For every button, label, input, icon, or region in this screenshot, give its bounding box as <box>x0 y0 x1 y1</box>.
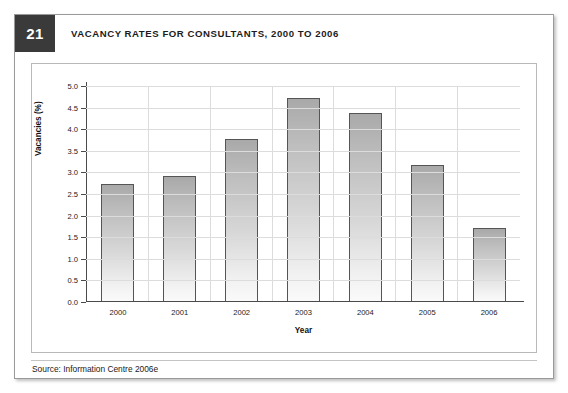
gridline <box>86 129 520 130</box>
y-axis-tick-label: 2.5 <box>67 190 78 199</box>
y-axis-tick <box>81 108 86 109</box>
x-axis-tick-label: 2001 <box>149 308 211 317</box>
y-axis-tick <box>81 216 86 217</box>
y-axis-tick-label: 0.5 <box>67 276 78 285</box>
y-axis-tick <box>81 86 86 87</box>
gridline <box>86 280 520 281</box>
figure-title: VACANCY RATES FOR CONSULTANTS, 2000 TO 2… <box>55 15 553 52</box>
bar[interactable] <box>349 113 382 301</box>
y-axis-tick-label: 1.0 <box>67 254 78 263</box>
gridline <box>86 237 520 238</box>
x-axis-title: Year <box>87 326 520 335</box>
gridline <box>86 108 520 109</box>
y-axis-tick-label: 2.0 <box>67 211 78 220</box>
y-axis-tick <box>81 129 86 130</box>
y-axis-tick-label: 3.5 <box>67 146 78 155</box>
source-divider <box>31 360 537 361</box>
y-axis-tick-label: 4.5 <box>67 103 78 112</box>
y-axis-tick <box>81 151 86 152</box>
gridline <box>86 216 520 217</box>
y-axis-tick <box>81 194 86 195</box>
x-axis-tick-label: 2003 <box>273 308 335 317</box>
bar[interactable] <box>473 228 506 301</box>
y-axis-tick-label: 0.0 <box>67 298 78 307</box>
x-axis-tick-label: 2002 <box>211 308 273 317</box>
y-axis-tick <box>81 172 86 173</box>
y-axis-tick-label: 3.0 <box>67 168 78 177</box>
y-axis-tick-label: 4.0 <box>67 125 78 134</box>
figure-container: 21 VACANCY RATES FOR CONSULTANTS, 2000 T… <box>14 14 554 379</box>
figure-number-badge: 21 <box>15 15 55 52</box>
gridline <box>86 151 520 152</box>
bar[interactable] <box>225 139 258 301</box>
gridline <box>86 194 520 195</box>
x-axis-tick-label: 2005 <box>396 308 458 317</box>
y-axis-tick-label: 5.0 <box>67 82 78 91</box>
x-axis-tick-label: 2000 <box>87 308 149 317</box>
figure-header: 21 VACANCY RATES FOR CONSULTANTS, 2000 T… <box>15 15 553 52</box>
y-axis-tick <box>81 259 86 260</box>
x-axis-tick-label: 2004 <box>334 308 396 317</box>
y-axis-title: Vacancies (%) <box>34 142 43 156</box>
x-axis-line <box>86 301 524 302</box>
x-axis-tick-label: 2006 <box>458 308 520 317</box>
chart-panel: Vacancies (%) 0.00.51.01.52.02.53.03.54.… <box>31 63 537 353</box>
gridline <box>86 259 520 260</box>
chart-axes: 0.00.51.01.52.02.53.03.54.04.55.0 <box>86 86 520 302</box>
x-axis-tick-labels: 2000200120022003200420052006 <box>87 308 520 317</box>
bar[interactable] <box>101 184 134 301</box>
y-axis-tick <box>81 280 86 281</box>
y-axis-tick-label: 1.5 <box>67 233 78 242</box>
y-axis-tick <box>81 302 86 303</box>
source-note: Source: Information Centre 2006e <box>32 364 158 374</box>
gridline <box>86 86 520 87</box>
y-axis-tick <box>81 237 86 238</box>
chart-plot-area: Vacancies (%) 0.00.51.01.52.02.53.03.54.… <box>32 64 536 352</box>
gridline <box>86 172 520 173</box>
